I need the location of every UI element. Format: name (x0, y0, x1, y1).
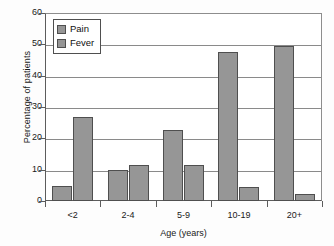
bar-pain-2 (52, 186, 72, 201)
legend-swatch-fever-icon (57, 39, 66, 48)
x-tick-label: 10-19 (209, 210, 269, 220)
bar-fever-20 (295, 194, 315, 201)
bar-fever-2-4 (129, 165, 149, 201)
bar-fever-2 (73, 117, 93, 201)
x-tick-mark (156, 201, 157, 207)
bar-pain-2-4 (108, 170, 128, 201)
x-axis-title: Age (years) (45, 228, 322, 238)
bar-pain-10-19 (218, 52, 238, 201)
y-tick-label: 10 (2, 165, 42, 174)
x-tick-mark (45, 201, 46, 207)
bar-group (156, 13, 211, 201)
bar-fever-10-19 (239, 187, 259, 201)
legend-swatch-pain-icon (57, 25, 66, 34)
bar-pain-5-9 (163, 130, 183, 201)
bar-group (267, 13, 322, 201)
x-tick-label: 2-4 (98, 210, 158, 220)
y-tick-label: 50 (2, 39, 42, 48)
x-tick-mark (267, 201, 268, 207)
x-tick-label: 5-9 (154, 210, 214, 220)
x-tick-mark (322, 201, 323, 207)
bar-pain-20 (274, 46, 294, 201)
y-tick-label: 40 (2, 71, 42, 80)
y-tick-label: 20 (2, 133, 42, 142)
legend-item-pain: Pain (57, 22, 94, 36)
legend-label-pain: Pain (70, 24, 89, 34)
legend-label-fever: Fever (70, 38, 94, 48)
bar-chart: Percentage of patients 0102030405060 <22… (0, 0, 334, 246)
x-tick-label: 20+ (264, 210, 324, 220)
y-axis-title: Percentage of patients (22, 2, 32, 192)
y-tick-label: 30 (2, 102, 42, 111)
y-tick-label: 60 (2, 8, 42, 17)
chart-legend: Pain Fever (53, 19, 101, 54)
bar-group (100, 13, 155, 201)
x-tick-mark (100, 201, 101, 207)
x-tick-label: <2 (43, 210, 103, 220)
legend-item-fever: Fever (57, 36, 94, 50)
x-tick-mark (211, 201, 212, 207)
bar-group (211, 13, 266, 201)
bar-fever-5-9 (184, 165, 204, 201)
y-tick-label: 0 (2, 196, 42, 205)
